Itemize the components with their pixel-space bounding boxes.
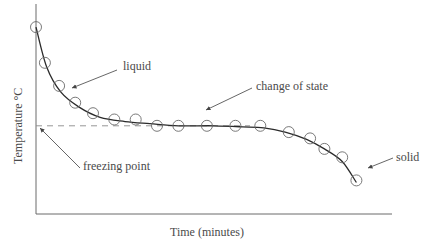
data-point-marker xyxy=(130,114,141,125)
liquid-label: liquid xyxy=(123,59,151,73)
change-of-state-label: change of state xyxy=(256,79,328,93)
freezing-point-label: freezing point xyxy=(83,159,151,173)
change-of-state-arrow xyxy=(206,88,252,110)
cooling-curve-chart: liquid change of state solid freezing po… xyxy=(0,0,435,243)
solid-label: solid xyxy=(396,150,419,164)
data-point-marker xyxy=(305,133,316,144)
y-axis-title: Temperature °C xyxy=(11,88,25,164)
data-points xyxy=(31,22,362,186)
data-point-marker xyxy=(70,97,81,108)
freezing-point-arrow xyxy=(40,128,80,168)
data-point-marker xyxy=(351,175,362,186)
data-point-marker xyxy=(255,120,266,131)
liquid-arrow xyxy=(72,70,117,88)
x-axis-title: Time (minutes) xyxy=(170,225,244,239)
solid-arrow xyxy=(368,158,393,168)
